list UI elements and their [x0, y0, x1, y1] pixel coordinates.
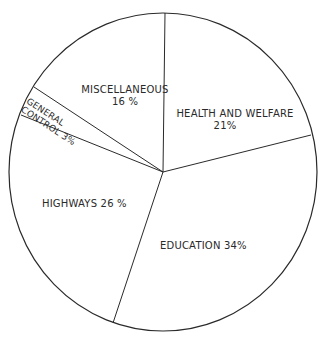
pie-chart — [0, 0, 323, 338]
slice-label-highways: HIGHWAYS 26 % — [42, 198, 127, 210]
slice-label-education: EDUCATION 34% — [160, 240, 247, 252]
misc-pct: 16 % — [70, 96, 180, 108]
health-name: HEALTH AND WELFARE — [175, 108, 295, 120]
health-pct: 21% — [155, 120, 295, 132]
slice-label-health: HEALTH AND WELFARE 21% — [175, 108, 295, 132]
misc-name: MISCELLANEOUS — [70, 84, 180, 96]
slice-label-miscellaneous: MISCELLANEOUS 16 % — [70, 84, 180, 108]
